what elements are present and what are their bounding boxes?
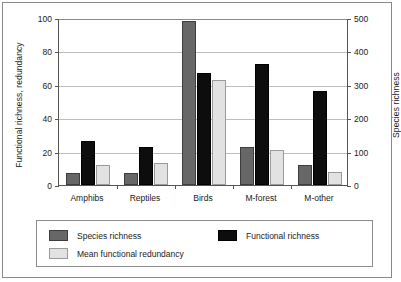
bar-group [233, 19, 291, 185]
plot-area: 0204060801000100200300400500 [58, 19, 348, 186]
bar-group [175, 19, 233, 185]
x-axis-category-separator [291, 185, 292, 189]
y-axis-left-tick-label: 80 [43, 48, 52, 57]
x-axis-category-label: Amphibs [58, 193, 116, 203]
legend-label: Species richness [77, 231, 141, 241]
chart-legend: Species richnessFunctional richnessMean … [36, 220, 373, 267]
y-axis-left-tick-label: 40 [43, 115, 52, 124]
y-axis-right-tick-label: 500 [354, 15, 368, 24]
y-axis-left-tick-label: 0 [47, 182, 52, 191]
bar[interactable] [81, 141, 95, 185]
y-axis-right-tick [347, 186, 351, 187]
legend-swatch-icon [218, 230, 237, 241]
x-axis-category-separator [233, 185, 234, 189]
x-axis-category-label: M-other [290, 193, 348, 203]
bar[interactable] [313, 91, 327, 185]
bar[interactable] [240, 147, 254, 185]
bar[interactable] [124, 173, 138, 185]
y-axis-right-tick-label: 200 [354, 115, 368, 124]
bar[interactable] [197, 73, 211, 185]
bar[interactable] [298, 165, 312, 185]
y-axis-left-tick-label: 20 [43, 148, 52, 157]
y-axis-left-title: Functional richness, redundancy [14, 17, 24, 193]
legend-swatch-icon [49, 230, 68, 241]
y-axis-right-tick-label: 300 [354, 82, 368, 91]
chart-frame: Functional richness, redundancy Species … [2, 2, 392, 278]
bar[interactable] [182, 21, 196, 185]
y-axis-right-tick-label: 100 [354, 148, 368, 157]
x-axis-category-label: Birds [174, 193, 232, 203]
legend-label: Mean functional redundancy [77, 249, 184, 259]
bar-group [59, 19, 117, 185]
legend-label: Functional richness [246, 231, 319, 241]
y-axis-left-tick-label: 60 [43, 82, 52, 91]
bar[interactable] [328, 172, 342, 185]
legend-swatch-icon [49, 248, 68, 259]
bar-group [291, 19, 349, 185]
x-axis-category-separator [117, 185, 118, 189]
y-axis-right-title: Species richness [391, 17, 401, 193]
x-axis-category-label: Reptiles [116, 193, 174, 203]
bar[interactable] [270, 150, 284, 185]
bar[interactable] [139, 147, 153, 185]
bar[interactable] [154, 163, 168, 185]
bar[interactable] [96, 165, 110, 185]
bar-group [117, 19, 175, 185]
bar[interactable] [66, 173, 80, 185]
y-axis-left-tick [55, 186, 59, 187]
bar[interactable] [255, 64, 269, 185]
y-axis-left-tick-label: 100 [38, 15, 52, 24]
legend-item[interactable]: Species richness [49, 230, 141, 241]
y-axis-right-tick-label: 0 [354, 182, 359, 191]
x-axis-category-separator [175, 185, 176, 189]
legend-item[interactable]: Mean functional redundancy [49, 248, 184, 259]
y-axis-right-tick-label: 400 [354, 48, 368, 57]
legend-item[interactable]: Functional richness [218, 230, 319, 241]
bar[interactable] [212, 80, 226, 185]
x-axis-category-label: M-forest [232, 193, 290, 203]
